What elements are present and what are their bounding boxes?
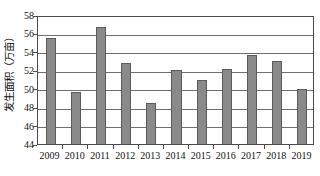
x-axis-tick-mark <box>87 145 88 149</box>
bar <box>96 27 106 144</box>
bar <box>197 80 207 144</box>
plot-area <box>37 16 314 145</box>
x-axis-tick-mark <box>188 145 189 149</box>
y-axis-tick-mark <box>33 89 37 90</box>
x-axis-tick-label: 2011 <box>90 151 110 161</box>
x-axis-tick-mark <box>138 145 139 149</box>
x-axis-tick-mark <box>264 145 265 149</box>
bar <box>71 92 81 144</box>
x-axis-tick-label: 2012 <box>115 151 135 161</box>
y-axis-tick-mark <box>33 71 37 72</box>
x-axis-tick-mark <box>289 145 290 149</box>
bar <box>222 69 232 144</box>
y-axis-title-label: 发生面积（万亩） <box>4 33 15 113</box>
x-axis-tick-label: 2018 <box>266 151 286 161</box>
bar <box>272 61 282 144</box>
x-axis-tick-label: 2019 <box>291 151 311 161</box>
x-axis-tick-label: 2017 <box>241 151 261 161</box>
bar <box>171 70 181 144</box>
x-axis-tick-mark <box>213 145 214 149</box>
bar-chart: 发生面积（万亩） 4446485052545658 20092010201120… <box>0 0 320 176</box>
x-axis-tick-label: 2014 <box>166 151 186 161</box>
x-axis-tick-mark <box>163 145 164 149</box>
y-axis-title: 发生面积（万亩） <box>0 0 18 145</box>
y-axis-tick-mark <box>33 34 37 35</box>
bars-layer <box>38 17 313 144</box>
x-axis-tick-label: 2016 <box>216 151 236 161</box>
bar <box>146 103 156 144</box>
x-axis-tick-label: 2013 <box>140 151 160 161</box>
x-axis-tick-mark <box>238 145 239 149</box>
x-axis-tick-mark <box>62 145 63 149</box>
x-axis-tick-label: 2015 <box>191 151 211 161</box>
y-axis-tick-mark <box>33 108 37 109</box>
x-axis-tick-label: 2009 <box>40 151 60 161</box>
x-axis-tick-label: 2010 <box>65 151 85 161</box>
bar <box>247 55 257 144</box>
x-axis-tick-marks <box>37 145 314 149</box>
bar <box>46 38 56 144</box>
x-axis-tick-mark <box>113 145 114 149</box>
bar <box>297 89 307 144</box>
y-axis-tick-mark <box>33 16 37 17</box>
y-axis-tick-mark <box>33 126 37 127</box>
y-axis-tick-mark <box>33 52 37 53</box>
bar <box>121 63 131 144</box>
x-axis-tick-labels: 2009201020112012201320142015201620172018… <box>37 151 314 171</box>
